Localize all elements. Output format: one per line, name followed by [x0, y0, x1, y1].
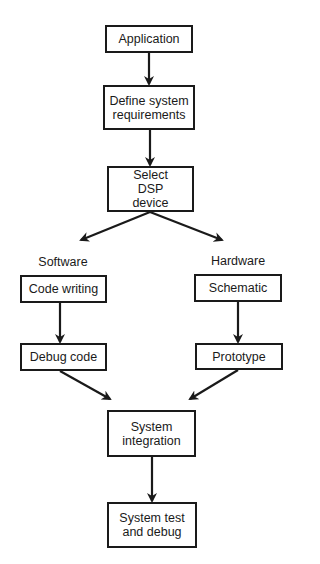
node-select-dsp: Select DSP device	[107, 166, 194, 212]
node-schematic-label: Schematic	[209, 281, 267, 295]
node-integration-label: System integration	[117, 420, 186, 448]
arrow-prototype-integration	[190, 370, 238, 399]
arrow-select-hardware	[150, 212, 222, 240]
node-code-writing: Code writing	[20, 275, 107, 303]
node-prototype-label: Prototype	[212, 350, 266, 364]
node-system-integration: System integration	[107, 410, 196, 457]
branch-label-hardware: Hardware	[203, 254, 273, 268]
node-application-label: Application	[118, 32, 179, 46]
node-debug-code: Debug code	[20, 343, 107, 371]
node-schematic: Schematic	[194, 274, 282, 302]
node-system-test: System test and debug	[107, 502, 197, 548]
arrow-debug-integration	[60, 371, 110, 399]
node-prototype: Prototype	[195, 343, 283, 370]
arrow-select-software	[81, 212, 150, 240]
node-define-label: Define system requirements	[108, 94, 190, 122]
node-code-writing-label: Code writing	[29, 282, 98, 296]
branch-label-software: Software	[28, 255, 98, 269]
node-define-requirements: Define system requirements	[103, 85, 195, 130]
node-select-label: Select DSP device	[119, 168, 182, 210]
node-application: Application	[105, 25, 193, 53]
node-debug-code-label: Debug code	[30, 350, 97, 364]
node-test-label: System test and debug	[117, 511, 187, 539]
